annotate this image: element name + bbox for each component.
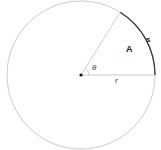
angle-marker-arc bbox=[85, 68, 89, 75]
arc-length-label: s bbox=[146, 36, 150, 44]
radius-line-angled bbox=[81, 12, 120, 75]
circle-diagram-svg bbox=[0, 0, 161, 150]
radius-label: r bbox=[115, 77, 118, 85]
center-dot-icon bbox=[79, 73, 82, 76]
area-label: A bbox=[126, 45, 133, 54]
angle-label: θ bbox=[92, 64, 96, 72]
